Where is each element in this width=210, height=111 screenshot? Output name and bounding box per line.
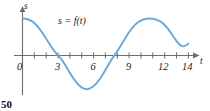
graph-plot	[0, 0, 210, 111]
x-tick-label-0: 0	[17, 62, 22, 73]
x-tick-label-3: 3	[55, 62, 60, 73]
x-axis-arrowhead	[193, 53, 200, 59]
x-tick-label-12: 12	[158, 62, 169, 73]
curve-equation-label: s = f(t)	[58, 16, 86, 26]
x-tick-label-6: 6	[91, 62, 96, 73]
figure-container: s t s = f(t) 0 3 6 9 12 14 50	[0, 0, 210, 111]
x-tick-label-9: 9	[126, 62, 131, 73]
figure-number: 50	[1, 99, 12, 110]
x-tick-label-14: 14	[182, 62, 193, 73]
y-axis-label: s	[24, 2, 28, 12]
x-axis-label: t	[200, 57, 203, 67]
